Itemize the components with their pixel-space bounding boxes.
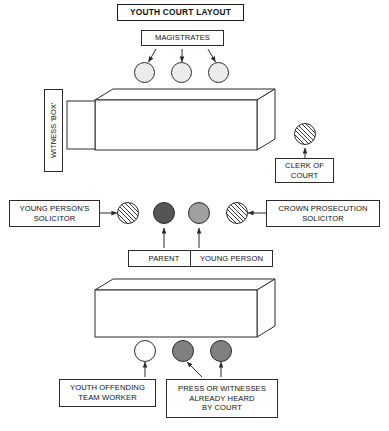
press-or-witnesses-arrows <box>187 362 221 377</box>
seat-parent <box>153 202 175 224</box>
label-magistrates: MAGISTRATES <box>141 30 224 46</box>
seat-young-person <box>188 202 210 224</box>
label-young-persons-solicitor: YOUNG PERSON'S SOLICITOR <box>9 200 100 227</box>
seat-young-persons-solicitor <box>117 202 139 224</box>
parent-young-person-arrows <box>164 228 199 248</box>
seat-press-or-witness-1 <box>172 340 194 362</box>
label-witness-box: WITNESS 'BOX' <box>44 89 63 172</box>
witness-box-connector <box>67 101 95 149</box>
seat-magistrate-1 <box>134 62 155 83</box>
label-young-person: YOUNG PERSON <box>190 250 273 267</box>
seat-magistrate-3 <box>208 62 229 83</box>
seat-magistrate-2 <box>171 62 192 83</box>
label-youth-offending-team-worker: YOUTH OFFENDING TEAM WORKER <box>59 379 156 407</box>
label-press-or-witnesses: PRESS OR WITNESSES ALREADY HEARD BY COUR… <box>166 379 278 418</box>
seat-youth-offending-team-worker <box>134 340 156 362</box>
youth-court-layout-diagram: YOUTH COURT LAYOUT MAGISTRATES WITNESS '… <box>0 0 389 431</box>
seat-crown-prosecution-solicitor <box>226 202 248 224</box>
page-title: YOUTH COURT LAYOUT <box>117 4 244 21</box>
magistrates-arrows <box>149 49 216 62</box>
public-gallery-bench <box>95 279 275 337</box>
magistrates-bench <box>95 89 275 150</box>
seat-press-or-witness-2 <box>210 340 232 362</box>
label-clerk-of-court: CLERK OF COURT <box>275 158 334 183</box>
label-crown-prosecution-solicitor: CROWN PROSECUTION SOLICITOR <box>266 200 380 227</box>
seat-clerk-of-court <box>294 123 316 145</box>
